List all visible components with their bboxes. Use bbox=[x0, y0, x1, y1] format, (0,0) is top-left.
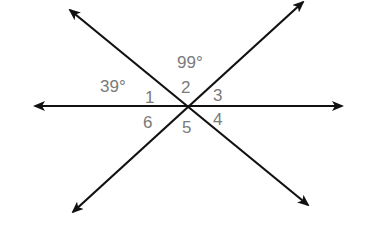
angle-number-3: 3 bbox=[213, 87, 222, 104]
angle-number-6: 6 bbox=[143, 114, 152, 131]
angle-number-1: 1 bbox=[145, 89, 154, 106]
angle-measure-39: 39° bbox=[100, 78, 126, 95]
angle-number-4: 4 bbox=[213, 111, 222, 128]
angle-number-2: 2 bbox=[181, 79, 190, 96]
angle-diagram: 39° 99° 1 2 3 4 5 6 bbox=[0, 0, 368, 231]
angle-measure-99: 99° bbox=[177, 54, 203, 71]
angle-number-5: 5 bbox=[182, 119, 191, 136]
lines-canvas bbox=[0, 0, 368, 231]
